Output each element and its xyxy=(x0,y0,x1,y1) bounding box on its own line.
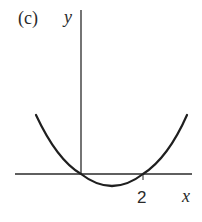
x-tick-label-2: 2 xyxy=(137,188,146,207)
panel-label: (c) xyxy=(18,8,38,29)
parabola-curve xyxy=(36,115,187,186)
function-graph: (c) y 2 x xyxy=(0,0,202,222)
y-axis-label: y xyxy=(62,7,72,27)
x-axis-label: x xyxy=(181,186,190,206)
